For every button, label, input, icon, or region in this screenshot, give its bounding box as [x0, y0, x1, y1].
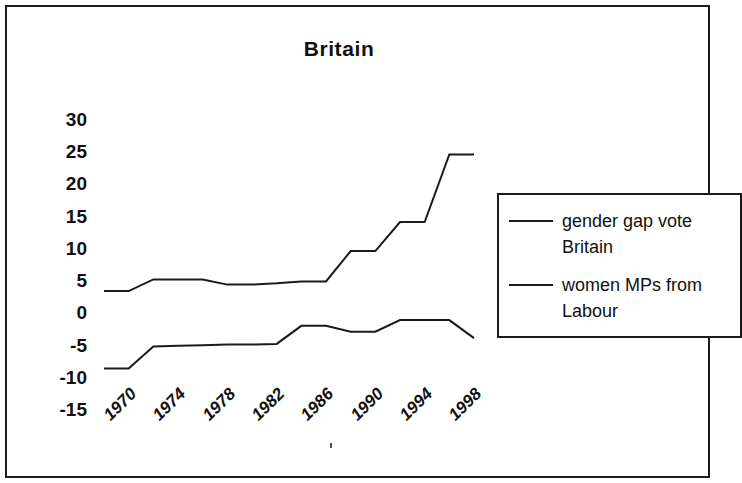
x-axis: 19701974197819821986199019941998 — [104, 411, 504, 481]
series-line — [104, 320, 474, 368]
legend-item-gender-gap-vote: gender gap vote Britain — [509, 209, 739, 260]
y-axis-tick-label: 30 — [41, 110, 87, 129]
legend-line-swatch-icon — [509, 220, 553, 222]
plot-lines — [104, 119, 474, 409]
plot-area — [104, 119, 474, 409]
chart-title: Britain — [19, 37, 659, 61]
y-axis-tick-label: 0 — [41, 303, 87, 322]
y-axis-tick-label: 5 — [41, 271, 87, 290]
y-axis-tick-label: 20 — [41, 174, 87, 193]
y-axis-tick-label: -15 — [41, 400, 87, 419]
page-content-area: Britain 302520151050-5-10-15 19701974197… — [19, 19, 700, 466]
chart-legend: gender gap vote Britain women MPs from L… — [497, 193, 742, 338]
y-axis-tick-label: -5 — [41, 335, 87, 354]
y-axis-tick-label: 15 — [41, 206, 87, 225]
y-axis: 302520151050-5-10-15 — [41, 119, 87, 409]
page-border: Britain 302520151050-5-10-15 19701974197… — [5, 5, 710, 478]
legend-line-swatch-icon — [509, 284, 553, 286]
y-axis-tick-label: -10 — [41, 367, 87, 386]
series-line — [104, 154, 474, 291]
stray-scan-mark — [330, 443, 332, 448]
y-axis-tick-label: 10 — [41, 238, 87, 257]
y-axis-tick-label: 25 — [41, 142, 87, 161]
legend-label: gender gap vote Britain — [562, 209, 737, 260]
legend-label: women MPs from Labour — [562, 273, 737, 324]
legend-item-women-mps: women MPs from Labour — [509, 273, 739, 324]
